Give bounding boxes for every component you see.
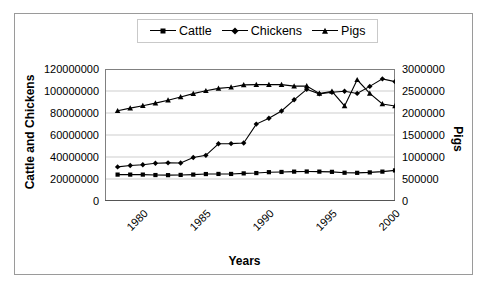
data-point-marker [179, 173, 183, 177]
data-point-marker [216, 172, 220, 176]
data-point-marker [355, 171, 359, 175]
data-point-marker [266, 116, 271, 121]
data-point-marker [380, 76, 385, 81]
data-point-marker [191, 173, 195, 177]
data-point-marker [342, 89, 347, 94]
x-tick-label: 1985 [187, 207, 213, 233]
data-point-marker [342, 171, 346, 175]
data-point-marker [141, 173, 145, 177]
plot-svg [105, 69, 395, 201]
data-point-marker [317, 170, 321, 174]
data-point-marker [228, 141, 233, 146]
data-point-marker [204, 172, 208, 176]
data-point-marker [153, 161, 158, 166]
data-point-marker [267, 170, 271, 174]
data-point-marker [128, 163, 133, 168]
data-point-marker [165, 160, 170, 165]
data-point-marker [354, 77, 360, 82]
data-point-marker [178, 160, 183, 165]
x-tick-label: 1990 [250, 207, 276, 233]
data-point-marker [393, 168, 395, 172]
data-point-marker [166, 173, 170, 177]
data-point-marker [330, 170, 334, 174]
data-point-marker [128, 173, 132, 177]
data-point-marker [392, 79, 395, 84]
data-point-marker [368, 170, 372, 174]
x-tick-label: 2000 [376, 207, 402, 233]
data-point-marker [279, 170, 283, 174]
data-point-marker [115, 164, 120, 169]
data-point-marker [254, 171, 258, 175]
data-point-marker [242, 171, 246, 175]
data-point-marker [367, 84, 372, 89]
data-point-marker [380, 170, 384, 174]
data-point-marker [116, 173, 120, 177]
data-point-marker [191, 155, 196, 160]
data-point-marker [292, 170, 296, 174]
data-point-marker [153, 173, 157, 177]
data-point-marker [354, 91, 359, 96]
plot-area [105, 69, 395, 201]
x-tick-label: 1980 [124, 207, 150, 233]
chart-frame: Cattle Chickens Pigs Cattle and Chickens… [14, 13, 473, 275]
x-tick-label: 1995 [313, 207, 339, 233]
data-point-marker [305, 169, 309, 173]
data-point-marker [140, 162, 145, 167]
data-point-marker [229, 172, 233, 176]
